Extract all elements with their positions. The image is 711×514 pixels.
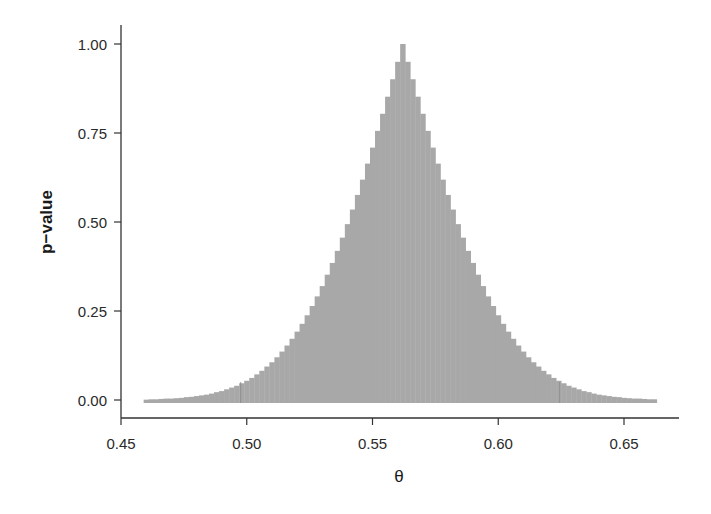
y-axis-title: p−value — [37, 190, 56, 254]
bar — [279, 352, 284, 403]
bar — [400, 44, 405, 403]
bar — [300, 324, 305, 403]
bar — [214, 392, 219, 403]
bar — [596, 395, 601, 403]
bar — [189, 397, 194, 403]
bar — [254, 374, 259, 403]
bar — [471, 263, 476, 403]
bar — [496, 315, 501, 403]
bar — [179, 398, 184, 403]
bar — [521, 352, 526, 403]
bar — [184, 397, 189, 403]
bar — [591, 394, 596, 403]
bar — [365, 164, 370, 403]
y-tick-label: 0.25 — [78, 303, 107, 320]
bar — [370, 148, 375, 403]
bar — [627, 398, 632, 403]
bar — [516, 346, 521, 403]
x-tick-label: 0.55 — [358, 435, 387, 452]
p-value-bars — [144, 44, 657, 403]
bar — [290, 339, 295, 403]
bar — [571, 388, 576, 403]
x-tick-label: 0.45 — [106, 435, 135, 452]
bar — [355, 195, 360, 403]
bar — [481, 286, 486, 403]
p-value-function-chart: 0.000.250.500.751.00 0.450.500.550.600.6… — [0, 0, 711, 514]
bar — [501, 324, 506, 403]
bar — [395, 62, 400, 403]
bar — [234, 386, 239, 403]
bar — [345, 224, 350, 403]
bar — [551, 378, 556, 403]
bar — [360, 180, 365, 403]
x-tick-label: 0.50 — [232, 435, 261, 452]
bar — [375, 131, 380, 403]
bar — [581, 391, 586, 403]
y-tick-label: 1.00 — [78, 36, 107, 53]
bar — [174, 398, 179, 403]
bar — [476, 275, 481, 403]
bar — [330, 263, 335, 403]
bar — [531, 362, 536, 403]
bar — [430, 148, 435, 403]
bar — [305, 315, 310, 403]
y-tick-label: 0.00 — [78, 392, 107, 409]
bar — [149, 399, 154, 403]
bar — [284, 346, 289, 403]
bar — [410, 79, 415, 403]
bar — [199, 395, 204, 403]
bar — [325, 275, 330, 403]
bar — [546, 374, 551, 403]
bar — [420, 114, 425, 403]
bar — [315, 296, 320, 403]
bar — [425, 131, 430, 403]
bar — [229, 388, 234, 403]
bar — [536, 367, 541, 403]
bar — [445, 195, 450, 403]
bar — [385, 97, 390, 403]
bar — [435, 164, 440, 403]
bar — [244, 381, 249, 403]
bar — [621, 398, 626, 403]
x-axis-ticks: 0.450.500.550.600.65 — [106, 418, 638, 452]
bar — [586, 392, 591, 403]
bar — [320, 286, 325, 403]
bar — [259, 371, 264, 403]
bar — [415, 97, 420, 403]
x-tick-label: 0.60 — [484, 435, 513, 452]
x-tick-label: 0.65 — [609, 435, 638, 452]
bar — [249, 378, 254, 403]
bar — [164, 399, 169, 403]
bar — [239, 383, 244, 403]
bar — [606, 396, 611, 403]
bar — [647, 399, 652, 403]
bar — [561, 383, 566, 403]
bar — [169, 399, 174, 403]
bar — [194, 396, 199, 403]
bar — [541, 371, 546, 403]
bar — [274, 357, 279, 403]
bar — [526, 357, 531, 403]
bar — [461, 238, 466, 403]
bar — [511, 339, 516, 403]
bar — [209, 394, 214, 403]
bar — [340, 238, 345, 403]
bar — [601, 395, 606, 403]
bar — [380, 114, 385, 403]
bar — [390, 79, 395, 403]
bar — [219, 391, 224, 403]
bar — [455, 224, 460, 403]
bar — [154, 399, 159, 403]
bar — [632, 399, 637, 403]
x-axis-title: θ — [394, 467, 403, 486]
bar — [295, 332, 300, 403]
y-tick-label: 0.50 — [78, 214, 107, 231]
bar — [637, 399, 642, 403]
y-tick-label: 0.75 — [78, 125, 107, 142]
bar — [466, 251, 471, 403]
bar — [566, 386, 571, 403]
bar — [159, 399, 164, 403]
bar — [204, 395, 209, 403]
bar — [264, 367, 269, 403]
bar — [350, 210, 355, 403]
